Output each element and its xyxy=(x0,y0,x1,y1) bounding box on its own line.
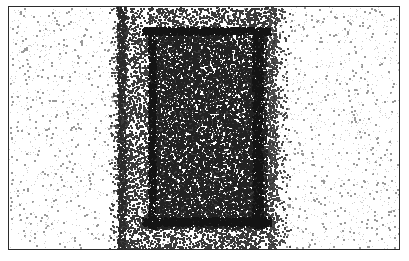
figure-root: Stippled point-density plot with a dense… xyxy=(0,0,409,261)
scatter-density-canvas xyxy=(0,0,409,261)
